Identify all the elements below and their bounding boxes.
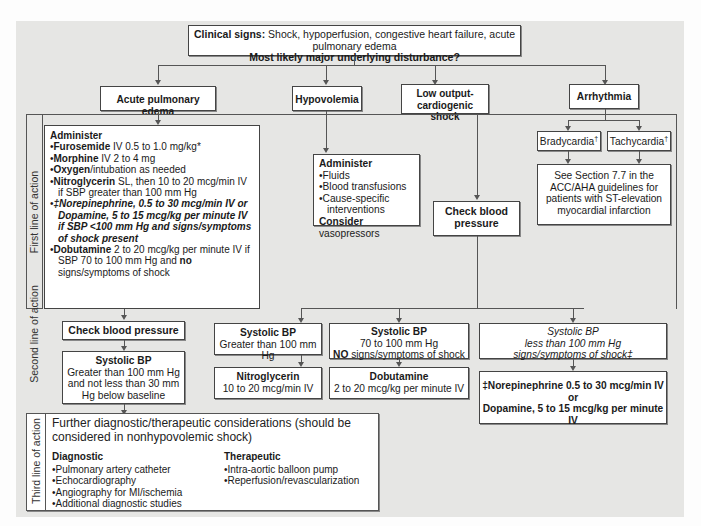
list-item: Cause-specific interventions — [319, 193, 414, 216]
arrow-icon — [323, 148, 329, 153]
connector — [477, 114, 478, 197]
bradycardia-box: Bradycardia† — [537, 131, 601, 151]
connector — [158, 65, 605, 66]
nitroglycerin-box: Nitroglycerin 10 to 20 mcg/min IV — [214, 367, 322, 399]
sbp-lt100-box: Systolic BP less than 100 mm Hg signs/sy… — [479, 323, 667, 359]
arrow-icon — [155, 80, 161, 85]
diagnostic-section: Diagnostic Pulmonary artery catheter Ech… — [52, 451, 222, 509]
list-item: Additional diagnostic studies — [52, 498, 222, 509]
third-line-intro: Further diagnostic/therapeutic considera… — [52, 416, 372, 444]
pressors-box: ‡Norepinephrine 0.5 to 30 mcg/min IV or … — [479, 371, 667, 424]
category-acute-pulmonary-edema: Acute pulmonary edema — [100, 86, 216, 111]
connector — [477, 236, 478, 308]
list-item: Echocardiography — [52, 475, 222, 486]
see-section-box: See Section 7.7 in the ACC/AHA guideline… — [537, 164, 671, 225]
connector — [605, 109, 606, 120]
clinical-signs-text: Shock, hypoperfusion, congestive heart f… — [265, 28, 515, 52]
tachycardia-box: Tachycardia† — [607, 131, 671, 151]
list-item: Oxygen/intubation as needed — [50, 164, 254, 175]
arrow-icon — [323, 80, 329, 85]
list-item: Fluids — [319, 170, 414, 182]
low-output-check-bp-box: Check blood pressure — [433, 201, 520, 236]
connector — [435, 65, 436, 81]
ape-first-list: Furosemide IV 0.5 to 1.0 mg/kg* Morphine… — [50, 141, 254, 278]
sbp-70-100-box: Systolic BP 70 to 100 mm Hg NO signs/sym… — [329, 323, 469, 359]
list-item: Furosemide IV 0.5 to 1.0 mg/kg* — [50, 141, 254, 152]
connector — [326, 111, 327, 149]
list-item: Pulmonary artery catheter — [52, 464, 222, 475]
arrow-icon — [121, 315, 127, 320]
connector — [568, 120, 640, 121]
clinical-signs-box: Clinical signs: Shock, hypoperfusion, co… — [188, 25, 521, 56]
list-item: Angiography for MI/ischemia — [52, 487, 222, 498]
ape-first-line-box: Administer Furosemide IV 0.5 to 1.0 mg/k… — [44, 125, 260, 309]
list-item: Nitroglycerin SL, then 10 to 20 mcg/min … — [50, 176, 254, 199]
third-line-label: Third line of action — [30, 413, 42, 509]
connector — [605, 65, 606, 81]
connector — [326, 65, 327, 81]
list-item: Morphine IV 2 to 4 mg — [50, 153, 254, 164]
hypovolemia-first-line-box: Administer Fluids Blood transfusions Cau… — [313, 154, 420, 226]
dobutamine-box: Dobutamine 2 to 20 mcg/kg per minute IV — [329, 367, 469, 399]
second-line-label: Second line of action — [28, 284, 40, 384]
list-item: Intra-aortic balloon pump — [224, 464, 374, 475]
list-item: Reperfusion/revascularization — [224, 475, 374, 486]
sbp-gt100-box: Systolic BP Greater than 100 mm Hg — [214, 323, 322, 355]
category-arrhythmia: Arrhythmia — [569, 84, 639, 109]
check-bp-box: Check blood pressure — [62, 321, 185, 340]
connector — [158, 65, 159, 81]
clinical-signs-label: Clinical signs: — [194, 28, 265, 40]
first-line-label: First line of action — [28, 165, 40, 259]
list-item: Dobutamine 2 to 20 mcg/kg per minute IV … — [50, 244, 254, 278]
category-hypovolemia: Hypovolemia — [292, 86, 362, 111]
therapeutic-section: Therapeutic Intra-aortic balloon pump Re… — [224, 451, 374, 487]
sbp-ape-box: Systolic BP Greater than 100 mm Hg and n… — [62, 351, 185, 404]
list-item: Blood transfusions — [319, 181, 414, 193]
connector — [354, 56, 355, 65]
connector — [301, 308, 584, 309]
list-item: ‡Norepinephrine, 0.5 to 30 mcg/min IV or… — [50, 198, 254, 244]
arrow-icon — [474, 195, 480, 200]
category-low-output: Low output-cardiogenic shock — [401, 84, 489, 114]
